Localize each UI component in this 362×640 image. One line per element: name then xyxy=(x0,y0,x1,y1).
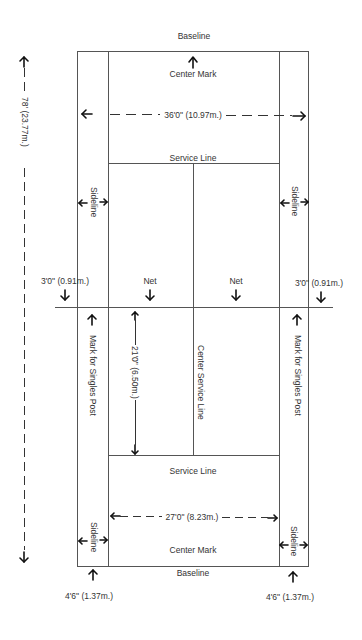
width-singles-label: 27'0" (8.23m.) xyxy=(166,512,219,522)
net-left-label: Net xyxy=(143,276,156,286)
net-right-arrow-icon xyxy=(232,290,240,300)
width-doubles-left-arrow-icon xyxy=(82,110,92,118)
net-ext-left-label: 3'0" (0.91m.) xyxy=(41,276,89,286)
sideline-right-top-label: Sideline xyxy=(290,186,300,216)
center-mark-top-label: Center Mark xyxy=(170,69,217,79)
net-left-arrow-icon xyxy=(146,290,154,300)
length-top-arrow-icon xyxy=(20,57,28,67)
width-singles-right-arrow-icon xyxy=(268,515,277,521)
alley-right-arrow-icon xyxy=(289,572,297,582)
singles-post-right-label: Mark for Singles Post xyxy=(293,335,303,416)
baseline-top-label: Baseline xyxy=(178,31,211,41)
court-diagram xyxy=(0,0,362,640)
alley-right-label: 4'6" (1.37m.) xyxy=(266,592,314,602)
length-total-label: 78' (23.77m.) xyxy=(20,97,30,147)
singles-post-right-arrow-icon xyxy=(293,315,301,325)
net-ext-right-arrow-icon xyxy=(317,292,325,302)
width-singles-left-arrow-icon xyxy=(111,513,120,519)
net-ext-right-label: 3'0" (0.91m.) xyxy=(295,278,343,288)
width-doubles-label: 36'0" (10.97m.) xyxy=(164,110,222,120)
width-doubles-right-arrow-icon xyxy=(293,112,305,120)
service-line-top-label: Service Line xyxy=(170,153,217,163)
center-service-line-label: Center Service Line xyxy=(196,345,206,420)
service-box-length-label: 21'0" (6.50m.) xyxy=(130,346,140,399)
baseline-bottom-label: Baseline xyxy=(177,568,210,578)
singles-post-left-label: Mark for Singles Post xyxy=(88,335,98,416)
sideline-left-bottom-label: Sideline xyxy=(89,522,99,552)
sideline-left-top-label: Sideline xyxy=(89,187,99,217)
length-bottom-arrow-icon xyxy=(20,552,28,562)
singles-post-left-arrow-icon xyxy=(88,315,96,325)
net-ext-left-arrow-icon xyxy=(61,290,69,300)
sideline-right-bottom-label: Sideline xyxy=(289,526,299,556)
net-right-label: Net xyxy=(229,276,242,286)
center-mark-top-arrow-icon xyxy=(189,57,197,68)
service-line-bottom-label: Service Line xyxy=(170,466,217,476)
alley-left-arrow-icon xyxy=(89,570,97,580)
service-box-top-arrow-icon xyxy=(132,312,138,320)
service-box-bottom-arrow-icon xyxy=(132,445,138,454)
center-mark-bottom-label: Center Mark xyxy=(170,545,217,555)
alley-left-label: 4'6" (1.37m.) xyxy=(65,591,113,601)
